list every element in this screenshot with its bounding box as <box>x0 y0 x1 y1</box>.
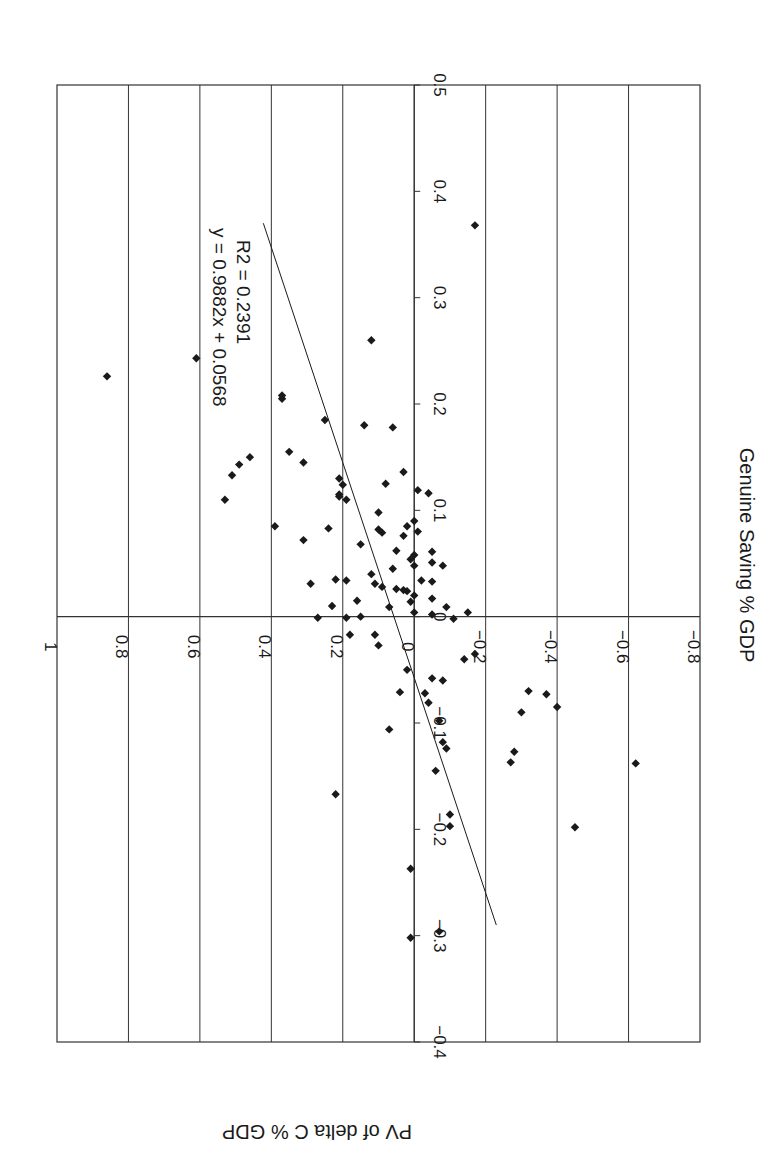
data-point <box>510 748 518 756</box>
data-point <box>428 594 436 602</box>
scatter-chart: −0.4−0.3−0.2−0.100.10.20.30.40.5−0.8−0.6… <box>0 0 765 1167</box>
data-point <box>389 423 397 431</box>
data-point <box>410 517 418 525</box>
data-point <box>414 486 422 494</box>
data-point <box>431 767 439 775</box>
data-point <box>342 576 350 584</box>
y-tick-label: 1 <box>41 642 60 651</box>
plot-group <box>57 85 700 1042</box>
y-tick-label: 0 <box>398 642 417 651</box>
data-point <box>103 372 111 380</box>
y-tick-label: −0.8 <box>684 630 703 664</box>
data-point <box>442 603 450 611</box>
data-point <box>428 558 436 566</box>
data-point <box>342 614 350 622</box>
data-point <box>553 703 561 711</box>
data-point <box>381 480 389 488</box>
trend-r2: R2 = 0.2391 <box>233 240 254 344</box>
data-point <box>449 615 457 623</box>
data-point <box>367 570 375 578</box>
data-point <box>221 496 229 504</box>
data-point <box>235 460 243 468</box>
data-point <box>517 708 525 716</box>
x-tick-label: 0.1 <box>430 499 449 523</box>
trend-line <box>263 223 496 925</box>
y-tick-label: −0.2 <box>470 630 489 664</box>
data-point <box>424 489 432 497</box>
data-point <box>506 758 514 766</box>
data-point <box>524 687 532 695</box>
data-point <box>246 453 254 461</box>
y-tick-label: −0.6 <box>613 630 632 664</box>
x-tick-label: 0.3 <box>430 286 449 310</box>
data-point <box>331 790 339 798</box>
data-point <box>299 458 307 466</box>
data-point <box>428 674 436 682</box>
data-point <box>421 689 429 697</box>
data-point <box>389 565 397 573</box>
y-tick-label: 0.4 <box>255 635 274 659</box>
data-point <box>399 532 407 540</box>
data-point <box>471 221 479 229</box>
data-point <box>392 547 400 555</box>
data-point <box>385 725 393 733</box>
data-point <box>414 527 422 535</box>
data-point <box>328 602 336 610</box>
data-point <box>396 688 404 696</box>
data-point <box>324 524 332 532</box>
data-point <box>460 655 468 663</box>
data-point <box>371 580 379 588</box>
x-tick-label: 0 <box>430 612 449 621</box>
data-point <box>331 575 339 583</box>
chart-canvas: −0.4−0.3−0.2−0.100.10.20.30.40.5−0.8−0.6… <box>0 0 765 1167</box>
data-point <box>417 576 425 584</box>
data-point <box>371 631 379 639</box>
data-point <box>285 448 293 456</box>
data-point <box>374 508 382 516</box>
data-point <box>403 522 411 530</box>
x-tick-label: 0.5 <box>430 73 449 97</box>
trend-equation: y = 0.9882x + 0.0568 <box>209 228 230 407</box>
data-point <box>406 864 414 872</box>
data-point <box>346 631 354 639</box>
data-point <box>399 468 407 476</box>
data-point <box>571 823 579 831</box>
x-tick-label: −0.4 <box>430 1025 449 1059</box>
x-tick-label: −0.2 <box>430 813 449 847</box>
data-point <box>360 421 368 429</box>
data-point <box>410 608 418 616</box>
y-tick-label: 0.6 <box>184 635 203 659</box>
data-point <box>353 597 361 605</box>
data-point <box>464 608 472 616</box>
x-tick-label: −0.1 <box>430 706 449 740</box>
data-point <box>192 354 200 362</box>
y-axis-title: PV of delta C % GDP <box>222 1121 412 1143</box>
data-point <box>632 759 640 767</box>
data-point <box>439 676 447 684</box>
data-point <box>439 561 447 569</box>
x-tick-label: 0.2 <box>430 392 449 416</box>
y-tick-label: 0.8 <box>112 635 131 659</box>
x-axis-title: Genuine Saving % GDP <box>736 448 758 663</box>
data-point <box>403 666 411 674</box>
data-point <box>306 580 314 588</box>
data-point <box>428 548 436 556</box>
data-point <box>542 690 550 698</box>
data-point <box>356 612 364 620</box>
plot-frame <box>57 85 700 1042</box>
data-point <box>406 934 414 942</box>
data-point <box>356 540 364 548</box>
y-tick-label: −0.4 <box>541 630 560 664</box>
data-point <box>299 536 307 544</box>
data-point <box>374 641 382 649</box>
data-point <box>342 496 350 504</box>
x-tick-label: −0.3 <box>430 919 449 953</box>
data-point <box>314 614 322 622</box>
data-point <box>228 471 236 479</box>
data-point <box>428 577 436 585</box>
y-tick-label: 0.2 <box>327 635 346 659</box>
x-tick-label: 0.4 <box>430 180 449 204</box>
data-point <box>367 336 375 344</box>
data-point <box>271 522 279 530</box>
data-point <box>392 585 400 593</box>
